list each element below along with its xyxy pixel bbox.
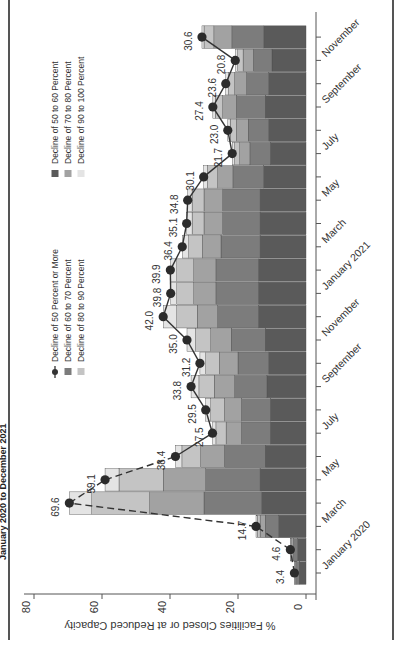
legend-label: Decline of 90 to 100 Percent <box>76 56 86 164</box>
data-label: 30.1 <box>185 171 196 191</box>
bar-segment <box>241 399 270 422</box>
bar-segment <box>240 142 250 165</box>
month-label: January 2021 <box>319 238 373 292</box>
data-label: 36.4 <box>163 241 174 261</box>
value-axis: 020406080 <box>20 594 316 613</box>
data-label: 31.2 <box>181 357 192 377</box>
bar-segment <box>260 515 265 538</box>
data-label: 35.0 <box>168 334 179 354</box>
total-marker <box>286 545 295 554</box>
legend-swatch <box>65 170 72 177</box>
bar-segment <box>265 329 306 352</box>
data-label: 39.8 <box>152 287 163 307</box>
bar-segment <box>262 492 306 514</box>
total-marker <box>182 335 191 344</box>
bars-group <box>69 26 306 584</box>
bar-segment <box>265 96 306 119</box>
bar-segment <box>211 329 231 352</box>
bar-segment <box>250 142 270 165</box>
month-label: January 2020 <box>319 518 373 572</box>
bar-segment <box>270 142 306 165</box>
bar-segment <box>223 212 260 235</box>
legend-swatch <box>78 170 85 177</box>
value-tick-label: 0 <box>292 604 304 610</box>
legend-swatch <box>52 170 59 177</box>
bar-segment <box>216 422 226 445</box>
bar-segment <box>235 72 247 95</box>
total-marker <box>251 522 260 531</box>
bar-segment <box>199 375 214 398</box>
bar-segment <box>235 375 267 398</box>
month-label: November <box>319 16 362 59</box>
bar-segment <box>236 96 265 119</box>
bar-segment <box>264 26 306 48</box>
bar-segment <box>196 329 211 352</box>
data-label: 23.6 <box>207 78 218 98</box>
total-marker <box>178 242 187 251</box>
bar-segment <box>206 469 260 492</box>
data-label: 42.0 <box>144 311 155 331</box>
bar-segment <box>265 445 306 468</box>
total-marker <box>182 219 191 228</box>
value-tick-label: 80 <box>20 601 32 613</box>
bar-segment <box>226 422 241 445</box>
value-tick-label: 40 <box>156 601 168 613</box>
legend-label: Decline of 80 to 90 Percent <box>76 259 86 362</box>
data-label: 38.4 <box>156 450 167 470</box>
bar-segment <box>119 469 163 492</box>
data-label: 3.4 <box>275 570 286 584</box>
data-label: 4.6 <box>271 546 282 560</box>
bar-segment <box>260 189 306 212</box>
bar-segment <box>182 445 201 468</box>
bar-segment <box>269 119 306 142</box>
bar-segment <box>270 399 306 422</box>
data-label: 20.8 <box>216 54 227 74</box>
bar-segment <box>194 259 216 282</box>
bar-segment <box>223 189 260 212</box>
legend-label: Decline of 70 to 80 Percent <box>63 61 73 164</box>
total-marker <box>201 405 210 414</box>
bar-segment <box>224 399 241 422</box>
bar-segment <box>177 305 197 328</box>
total-marker <box>221 79 230 88</box>
bar-segment <box>204 189 223 212</box>
data-label: 27.4 <box>194 101 205 121</box>
bar-segment <box>279 515 306 538</box>
data-label: 27.5 <box>194 427 205 447</box>
bar-segment <box>260 236 306 258</box>
bar-segment <box>192 212 204 235</box>
data-label: 59.1 <box>86 474 97 494</box>
bar-segment <box>211 399 225 422</box>
total-marker <box>197 33 206 42</box>
data-label: 23.0 <box>209 124 220 144</box>
bar-segment <box>269 72 306 95</box>
bar-segment <box>204 492 262 514</box>
bar-segment <box>214 375 234 398</box>
bar-segment <box>258 305 306 328</box>
legend-swatch <box>65 368 72 375</box>
month-label: July <box>319 409 341 431</box>
bar-segment <box>236 119 248 142</box>
total-marker <box>290 568 299 577</box>
bar-segment <box>224 445 265 468</box>
data-label: 29.5 <box>187 404 198 424</box>
bar-segment <box>216 282 259 305</box>
month-label: March <box>319 496 348 525</box>
bar-segment <box>218 166 233 189</box>
bar-segment <box>241 422 270 445</box>
month-label: May <box>319 455 342 478</box>
legend-marker-icon <box>52 369 58 375</box>
bar-segment <box>163 469 206 492</box>
legend-label: Decline of 50 to 60 Percent <box>50 61 60 164</box>
total-marker <box>208 102 217 111</box>
category-axis: January 2020MarchMayJulySeptemberNovembe… <box>316 12 373 600</box>
bar-segment <box>264 166 307 189</box>
total-marker <box>166 266 175 275</box>
total-marker <box>223 126 232 135</box>
left-frame-line <box>8 0 10 640</box>
value-tick-label: 60 <box>88 601 100 613</box>
total-marker <box>186 382 195 391</box>
total-marker <box>231 56 240 65</box>
bar-segment <box>92 492 150 514</box>
legend: Decline of 50 Percent or MoreDecline of … <box>50 56 86 378</box>
